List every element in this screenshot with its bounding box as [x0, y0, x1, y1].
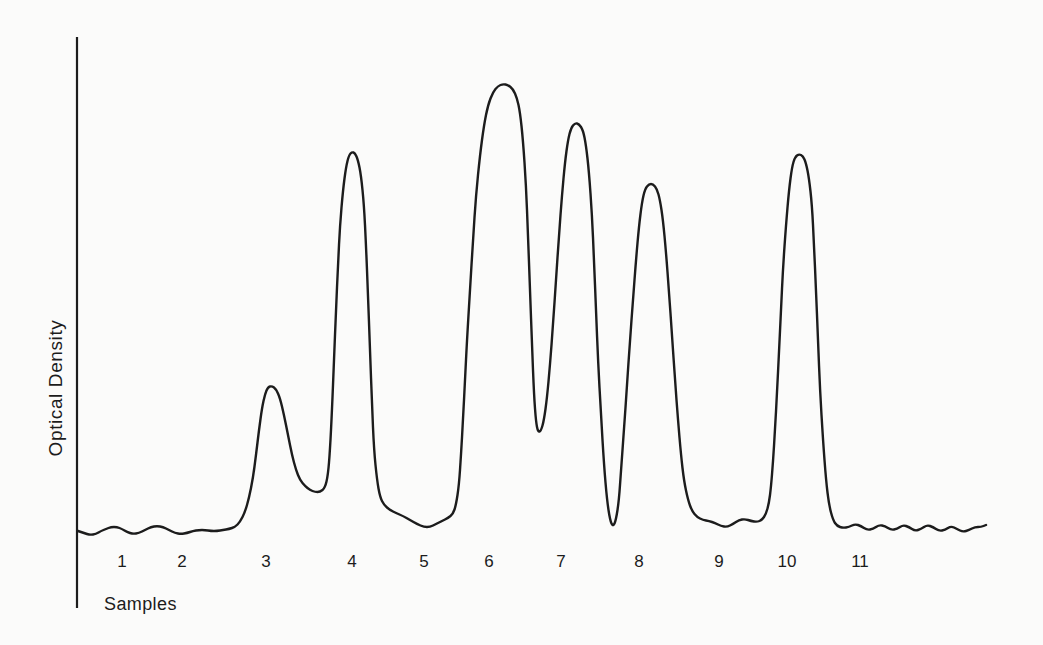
x-tick-label-11: 11	[851, 552, 869, 572]
x-tick-label-10: 10	[778, 552, 797, 572]
trace-svg	[0, 0, 1043, 645]
x-tick-label-8: 8	[634, 552, 643, 572]
x-tick-label-4: 4	[347, 552, 356, 572]
x-tick-label-7: 7	[556, 552, 565, 572]
x-tick-label-3: 3	[261, 552, 270, 572]
y-axis-label: Optical Density	[45, 320, 67, 457]
x-tick-label-5: 5	[419, 552, 428, 572]
x-tick-label-1: 1	[117, 552, 126, 572]
x-tick-label-6: 6	[484, 552, 493, 572]
densitometry-figure: Optical Density 1234567891011 Samples	[0, 0, 1043, 645]
x-tick-label-2: 2	[177, 552, 186, 572]
x-axis-label: Samples	[104, 594, 177, 615]
x-tick-label-9: 9	[714, 552, 723, 572]
density-trace-curve	[78, 84, 986, 534]
